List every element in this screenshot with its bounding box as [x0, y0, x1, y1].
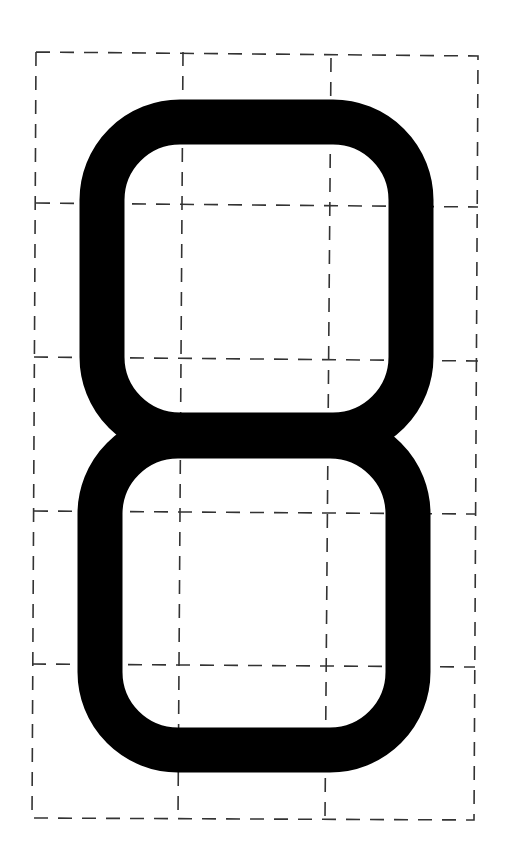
digit-diagram	[0, 0, 505, 864]
digit-eight-glyph	[100, 122, 411, 750]
upper-loop	[102, 122, 411, 435]
lower-loop	[100, 436, 408, 750]
